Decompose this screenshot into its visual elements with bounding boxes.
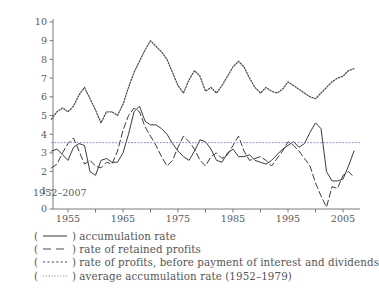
y-tick-label: 10 — [35, 16, 47, 27]
line-chart-plot: 109876543210 195519651975198519952005 19… — [0, 0, 379, 225]
chart-figure: 109876543210 195519651975198519952005 19… — [0, 0, 379, 292]
legend-label: rate of profits, before payment of inter… — [79, 256, 379, 268]
y-tick-label: 9 — [41, 35, 47, 46]
dashdot-line-marker — [38, 255, 72, 268]
legend-label: accumulation rate — [79, 230, 176, 242]
legend-item: () average accumulation rate (1952–1979) — [34, 269, 379, 282]
solid-line-marker — [38, 229, 72, 242]
series-layer — [52, 41, 360, 207]
x-tick-label: 1955 — [56, 213, 80, 224]
dashed-line-marker — [38, 242, 72, 255]
legend-item: () rate of profits, before payment of in… — [34, 255, 379, 268]
x-tick-label: 1965 — [111, 213, 135, 224]
x-tick-label: 1975 — [166, 213, 190, 224]
x-tick-label: 2005 — [331, 213, 355, 224]
y-tick-label: 8 — [41, 54, 47, 65]
y-tick-label: 3 — [41, 147, 47, 158]
y-tick-label: 2 — [41, 166, 47, 177]
y-tick-label: 0 — [41, 203, 47, 214]
y-tick-label: 4 — [41, 129, 47, 140]
y-tick-label: 7 — [41, 73, 47, 84]
y-axis: 109876543210 — [35, 16, 53, 214]
chart-legend: () accumulation rate() rate of retained … — [34, 229, 379, 282]
series-line-0 — [52, 106, 355, 181]
x-tick-label: 1985 — [221, 213, 245, 224]
x-tick-label: 1995 — [276, 213, 300, 224]
series-line-2 — [52, 41, 355, 123]
legend-label: average accumulation rate (1952–1979) — [79, 270, 292, 282]
y-tick-label: 5 — [41, 110, 47, 121]
period-annotation: 1952–2007 — [33, 187, 87, 198]
legend-item: () rate of retained profits — [34, 242, 379, 255]
series-line-1 — [52, 108, 355, 207]
x-axis: 195519651975198519952005 — [53, 209, 360, 224]
dotted-line-marker — [38, 269, 72, 282]
y-tick-label: 6 — [41, 91, 47, 102]
legend-label: rate of retained profits — [79, 243, 201, 255]
legend-item: () accumulation rate — [34, 229, 379, 242]
